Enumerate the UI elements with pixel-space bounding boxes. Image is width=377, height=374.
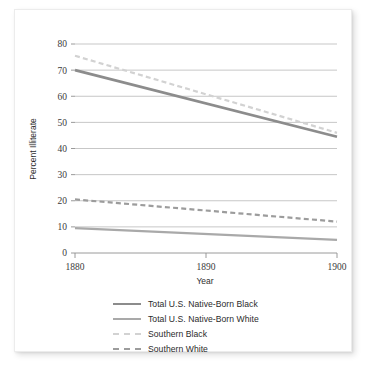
legend-label: Southern White bbox=[148, 344, 208, 354]
y-axis-title: Percent Illiterate bbox=[28, 118, 38, 180]
series-line-total-u-s-native-born-white bbox=[75, 228, 337, 240]
y-tick-label: 40 bbox=[58, 144, 68, 154]
plot-region: 01020304050607080 188018901900 Percent I… bbox=[15, 10, 353, 290]
legend-label: Total U.S. Native-Born Black bbox=[148, 299, 258, 309]
x-axis-title: Year bbox=[196, 276, 213, 286]
gridlines bbox=[71, 44, 337, 253]
legend-swatch-icon bbox=[113, 303, 141, 305]
y-tick-label: 80 bbox=[58, 39, 68, 49]
series-lines bbox=[75, 56, 337, 240]
legend-item[interactable]: Total U.S. Native-Born Black bbox=[15, 296, 353, 311]
legend-item[interactable]: Southern White bbox=[15, 341, 353, 356]
y-tick-label: 60 bbox=[58, 92, 68, 102]
y-tick-label: 30 bbox=[58, 170, 68, 180]
y-tick-label: 20 bbox=[58, 196, 68, 206]
legend-item[interactable]: Total U.S. Native-Born White bbox=[15, 311, 353, 326]
legend-label: Total U.S. Native-Born White bbox=[148, 314, 259, 324]
x-axis-tick-labels: 188018901900 bbox=[66, 262, 347, 272]
x-tick-label: 1880 bbox=[66, 262, 85, 272]
y-tick-label: 50 bbox=[58, 118, 68, 128]
y-axis-tick-labels: 01020304050607080 bbox=[58, 39, 68, 258]
series-line-southern-white bbox=[75, 199, 337, 221]
legend-swatch-icon bbox=[113, 333, 141, 335]
x-tick-label: 1890 bbox=[197, 262, 216, 272]
legend-swatch-icon bbox=[113, 348, 141, 350]
x-axis bbox=[75, 253, 337, 258]
y-tick-label: 10 bbox=[58, 222, 68, 232]
legend-label: Southern Black bbox=[148, 329, 207, 339]
legend-item[interactable]: Southern Black bbox=[15, 326, 353, 341]
y-tick-label: 70 bbox=[58, 66, 68, 76]
chart-card: 01020304050607080 188018901900 Percent I… bbox=[14, 9, 352, 352]
series-line-southern-black bbox=[75, 56, 337, 133]
y-tick-label: 0 bbox=[62, 248, 67, 258]
chart-legend: Total U.S. Native-Born BlackTotal U.S. N… bbox=[15, 296, 353, 356]
legend-swatch-icon bbox=[113, 318, 141, 320]
series-line-total-u-s-native-born-black bbox=[75, 70, 337, 137]
x-tick-label: 1900 bbox=[328, 262, 347, 272]
line-chart: 01020304050607080 188018901900 Percent I… bbox=[15, 10, 353, 290]
